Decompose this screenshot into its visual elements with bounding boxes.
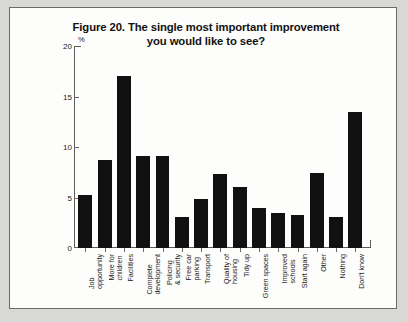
y-tick-label-15: 15	[52, 92, 72, 101]
y-tick-label-10: 10	[52, 143, 72, 152]
bar-policing-security	[156, 46, 170, 248]
x-tick-label-4: Policing& security	[166, 254, 181, 285]
bar-nothing	[329, 46, 343, 248]
x-tick-mark	[124, 248, 125, 252]
bar-series	[75, 46, 371, 248]
bar-job-opportunity	[78, 46, 92, 248]
figure-title: Figure 20. The single most important imp…	[46, 20, 366, 48]
x-tick-mark	[355, 248, 356, 252]
bar-facilities	[117, 46, 131, 248]
x-tick-label-line: housing	[231, 254, 239, 284]
x-tick-label-line: opportunity	[96, 254, 104, 289]
bar-transport	[194, 46, 208, 248]
figure-frame: Figure 20. The single most important imp…	[9, 7, 397, 309]
x-tick-label-0: Jobopportunity	[88, 254, 103, 289]
x-tick-mark	[143, 248, 144, 252]
x-tick-mark	[105, 248, 106, 252]
bar-fill	[252, 208, 266, 248]
x-tick-label-line: Green spaces	[262, 254, 270, 298]
x-tick-mark	[298, 248, 299, 252]
bar-complete-development	[136, 46, 150, 248]
x-tick-label-14: Don't know	[358, 254, 366, 289]
x-tick-label-line: Other	[320, 254, 328, 272]
bar-fill	[175, 217, 189, 248]
x-tick-mark	[201, 248, 202, 252]
x-tick-label-line: Nothing	[339, 254, 347, 278]
x-tick-label-1: More forchildren	[108, 254, 123, 280]
x-tick-mark	[163, 248, 164, 252]
bar-more-for-children	[98, 46, 112, 248]
bar-green-spaces	[252, 46, 266, 248]
bar-fill	[291, 215, 305, 248]
bar-other	[310, 46, 324, 248]
bar-free-car-parking	[175, 46, 189, 248]
y-tick-label-20: 20	[52, 42, 72, 51]
x-tick-label-9: Green spaces	[262, 254, 270, 298]
x-tick-label-line: Policing	[166, 254, 174, 285]
y-tick-label-5: 5	[52, 193, 72, 202]
y-tick-label-0: 0	[52, 244, 72, 253]
x-tick-mark	[220, 248, 221, 252]
x-tick-label-10: Improvedschools	[281, 254, 296, 284]
bar-fill	[78, 195, 92, 248]
bar-fill	[213, 174, 227, 248]
x-tick-label-line: Don't know	[358, 254, 366, 289]
x-tick-label-line: Start again	[301, 254, 309, 288]
x-tick-label-line: Facilities	[127, 254, 135, 281]
bar-fill	[310, 173, 324, 248]
x-tick-label-line: Tidy up	[243, 254, 251, 277]
y-axis-unit-label: %	[78, 35, 85, 44]
figure-title-line-1: Figure 20. The single most important imp…	[46, 20, 366, 34]
x-tick-label-line: Transport	[204, 254, 212, 284]
x-tick-label-line: & security	[173, 254, 181, 285]
x-tick-label-3: Completedevelopment	[146, 254, 161, 295]
x-tick-label-12: Other	[320, 254, 328, 272]
x-tick-mark	[336, 248, 337, 252]
bar-start-again	[291, 46, 305, 248]
x-tick-mark	[85, 248, 86, 252]
x-tick-label-5: Free carparking	[185, 254, 200, 280]
x-tick-mark	[317, 248, 318, 252]
x-tick-mark	[259, 248, 260, 252]
x-tick-label-7: Quality ofhousing	[223, 254, 238, 284]
chart-plot-area: % 05101520 JobopportunityMore forchildre…	[74, 46, 374, 261]
x-tick-mark	[182, 248, 183, 252]
x-tick-mark	[240, 248, 241, 252]
bar-fill	[117, 76, 131, 248]
x-tick-label-line: parking	[192, 254, 200, 280]
bar-tidy-up	[233, 46, 247, 248]
x-tick-label-8: Tidy up	[243, 254, 251, 277]
x-tick-label-2: Facilities	[127, 254, 135, 281]
x-tick-label-11: Start again	[301, 254, 309, 288]
bar-fill	[329, 217, 343, 248]
bar-fill	[136, 156, 150, 248]
x-tick-label-line: development	[154, 254, 162, 295]
bar-quality-of-housing	[213, 46, 227, 248]
bar-fill	[348, 112, 362, 248]
bar-fill	[271, 213, 285, 248]
x-tick-label-13: Nothing	[339, 254, 347, 278]
x-tick-label-line: children	[115, 254, 123, 280]
x-tick-mark	[278, 248, 279, 252]
bar-don-t-know	[348, 46, 362, 248]
bar-fill	[233, 187, 247, 248]
bar-fill	[194, 199, 208, 248]
bar-improved-schools	[271, 46, 285, 248]
bar-fill	[156, 156, 170, 248]
x-tick-label-6: Transport	[204, 254, 212, 284]
bar-fill	[98, 160, 112, 248]
x-tick-label-line: schools	[289, 254, 297, 284]
